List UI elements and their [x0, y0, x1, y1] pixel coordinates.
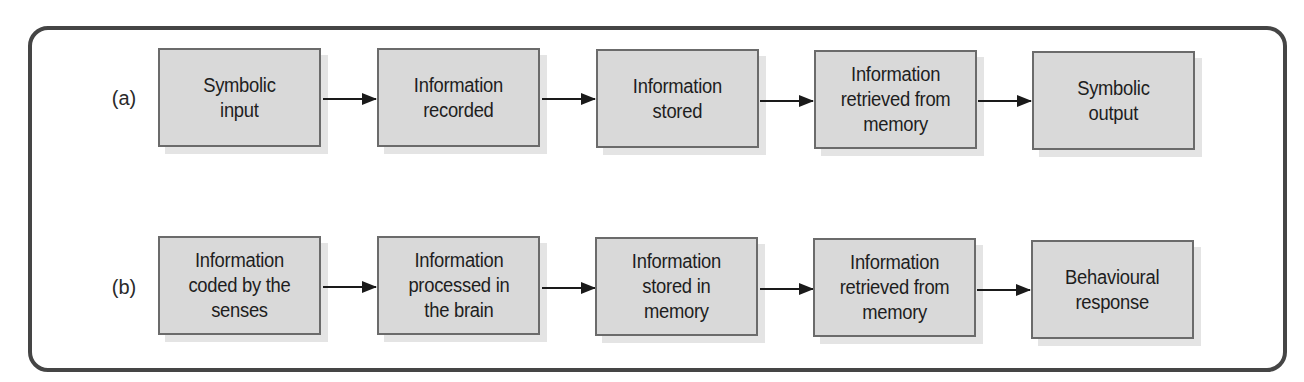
step-text: Information stored in memory: [632, 249, 721, 324]
arrow-icon: [760, 100, 813, 102]
arrow-icon: [760, 288, 813, 290]
row-a-step-4-information-retrieved: Information retrieved from memory: [814, 50, 977, 149]
arrow-icon: [978, 100, 1031, 102]
arrow-icon: [542, 287, 595, 289]
row-b-step-1-information-coded: Information coded by the senses: [158, 236, 321, 335]
row-a-label: (a): [104, 86, 144, 110]
row-a-step-2-information-recorded: Information recorded: [377, 48, 540, 147]
step-text: Information recorded: [414, 73, 503, 123]
arrow-icon: [977, 289, 1030, 291]
arrow-icon: [542, 98, 595, 100]
step-text: Information coded by the senses: [188, 248, 290, 323]
row-a-step-1-symbolic-input: Symbolic input: [158, 48, 321, 147]
row-b-step-2-information-processed: Information processed in the brain: [377, 236, 540, 335]
row-a-step-3-information-stored: Information stored: [596, 49, 759, 148]
row-b-step-3-information-stored-in-memory: Information stored in memory: [595, 237, 758, 336]
step-text: Information stored: [633, 74, 722, 124]
arrow-icon: [323, 98, 376, 100]
row-a-step-5-symbolic-output: Symbolic output: [1032, 51, 1195, 150]
step-text: Symbolic output: [1077, 76, 1149, 126]
step-text: Symbolic input: [203, 73, 275, 123]
step-text: Information retrieved from memory: [840, 250, 950, 325]
row-b-step-4-information-retrieved: Information retrieved from memory: [813, 238, 976, 337]
step-text: Behavioural response: [1065, 265, 1159, 315]
row-b-label: (b): [104, 275, 144, 299]
row-b-step-5-behavioural-response: Behavioural response: [1031, 240, 1194, 339]
step-text: Information processed in the brain: [408, 248, 509, 323]
arrow-icon: [323, 286, 376, 288]
step-text: Information retrieved from memory: [841, 62, 951, 137]
